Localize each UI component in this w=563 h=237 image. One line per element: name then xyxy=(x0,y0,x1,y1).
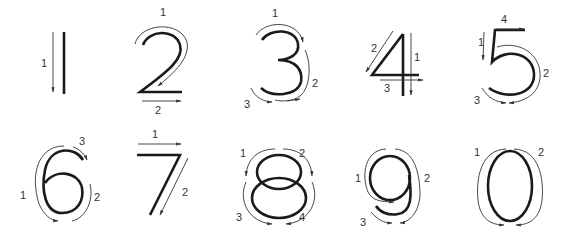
stroke-label: 1 xyxy=(272,8,278,19)
stroke-label: 4 xyxy=(501,14,507,25)
digit-3 xyxy=(251,25,309,102)
stroke-label: 3 xyxy=(474,95,480,106)
stroke-label: 1 xyxy=(478,37,484,48)
stroke-label: 2 xyxy=(155,105,161,116)
digit-9 xyxy=(365,149,420,223)
arrow-curve-icon xyxy=(243,182,272,224)
stroke-label: 3 xyxy=(79,136,85,147)
stroke-label: 3 xyxy=(236,212,242,223)
digit-5 xyxy=(482,29,540,103)
stroke-label: 2 xyxy=(94,192,100,203)
stroke-label: 3 xyxy=(384,83,390,94)
stroke-label: 1 xyxy=(414,52,420,63)
digit-2 xyxy=(135,27,187,101)
stroke-label: 3 xyxy=(244,99,250,110)
arrow-curve-icon xyxy=(478,149,506,225)
stroke-label: 2 xyxy=(543,68,549,79)
stroke-label: 2 xyxy=(424,173,430,184)
arrow-curve-icon xyxy=(514,149,542,225)
digit-7 xyxy=(137,144,188,215)
stroke-label: 1 xyxy=(474,147,480,158)
stroke-label: 1 xyxy=(240,148,246,159)
stroke-label: 1 xyxy=(20,190,26,201)
stroke-label: 2 xyxy=(299,148,305,159)
stroke-label: 2 xyxy=(312,78,318,89)
digit-0 xyxy=(478,149,543,225)
stroke-label: 1 xyxy=(355,173,361,184)
stroke-label: 2 xyxy=(538,147,544,158)
stroke-label: 3 xyxy=(360,217,366,228)
stroke-label: 4 xyxy=(299,212,305,223)
stroke-label: 1 xyxy=(152,129,158,140)
stroke-label: 1 xyxy=(41,58,47,69)
digit-1 xyxy=(53,32,64,94)
digit-6 xyxy=(35,146,91,221)
stroke-label: 2 xyxy=(371,43,377,54)
stroke-label: 2 xyxy=(182,187,188,198)
digit-4 xyxy=(366,31,423,96)
stroke-label: 1 xyxy=(160,7,166,18)
